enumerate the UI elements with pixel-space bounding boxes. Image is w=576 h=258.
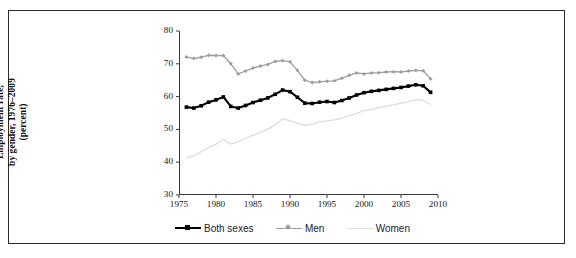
- data-point-marker: [251, 66, 255, 70]
- data-point-marker: [377, 89, 381, 93]
- data-point-marker: [258, 64, 262, 68]
- data-point-marker: [333, 101, 337, 105]
- data-point-marker: [369, 71, 373, 75]
- data-point-marker: [377, 71, 381, 75]
- series-both-sexes: [185, 83, 433, 110]
- data-point-marker: [259, 98, 263, 102]
- data-point-marker: [399, 70, 403, 74]
- data-point-marker: [399, 86, 403, 90]
- line-chart: Employment rate, by gender, 1976–2009 (p…: [0, 0, 576, 258]
- chart-legend: Both sexes Men Women: [175, 218, 410, 238]
- data-point-marker: [392, 87, 396, 91]
- data-point-marker: [288, 90, 292, 94]
- legend-item-both-sexes[interactable]: Both sexes: [175, 223, 253, 234]
- data-point-marker: [236, 106, 240, 110]
- data-point-marker: [414, 68, 418, 72]
- data-point-marker: [244, 69, 248, 73]
- legend-swatch-both-sexes: [175, 223, 201, 233]
- data-point-marker: [281, 59, 285, 63]
- data-point-marker: [355, 71, 359, 75]
- data-point-marker: [414, 83, 418, 87]
- data-point-marker: [332, 79, 336, 83]
- data-point-marker: [296, 95, 300, 99]
- data-point-marker: [214, 54, 218, 58]
- data-point-marker: [347, 73, 351, 77]
- data-point-marker: [318, 80, 322, 84]
- data-point-marker: [192, 57, 196, 61]
- data-point-marker: [273, 93, 277, 97]
- data-point-marker: [318, 100, 322, 104]
- legend-swatch-women: [347, 223, 373, 233]
- data-point-marker: [281, 88, 285, 92]
- figure-root: Employment rate, by gender, 1976–2009 (p…: [0, 0, 576, 258]
- data-point-marker: [362, 91, 366, 95]
- data-point-marker: [406, 69, 410, 73]
- data-point-marker: [222, 95, 226, 99]
- legend-swatch-men: [276, 223, 302, 233]
- data-point-marker: [340, 99, 344, 103]
- series-women: [186, 100, 430, 158]
- data-point-marker: [229, 105, 233, 109]
- legend-label-both-sexes: Both sexes: [204, 223, 253, 234]
- data-point-marker: [266, 62, 270, 66]
- data-point-marker: [392, 70, 396, 74]
- legend-item-men[interactable]: Men: [276, 223, 324, 234]
- data-point-marker: [384, 70, 388, 74]
- data-point-marker: [273, 60, 277, 64]
- data-point-marker: [199, 104, 203, 108]
- data-point-marker: [429, 91, 433, 95]
- data-point-marker: [184, 55, 188, 59]
- data-point-marker: [325, 100, 329, 104]
- data-point-marker: [251, 101, 255, 105]
- data-point-marker: [214, 98, 218, 102]
- data-point-marker: [310, 81, 314, 85]
- data-point-marker: [244, 104, 248, 108]
- data-point-marker: [325, 79, 329, 83]
- data-point-marker: [207, 53, 211, 57]
- data-point-marker: [192, 106, 196, 110]
- data-point-marker: [370, 90, 374, 94]
- data-point-marker: [355, 93, 359, 97]
- data-point-marker: [199, 55, 203, 59]
- data-point-marker: [347, 96, 351, 100]
- legend-label-men: Men: [305, 223, 324, 234]
- data-point-marker: [207, 100, 211, 104]
- data-point-marker: [340, 76, 344, 80]
- data-point-marker: [384, 88, 388, 92]
- data-point-marker: [303, 101, 307, 105]
- data-point-marker: [185, 105, 189, 109]
- legend-item-women[interactable]: Women: [347, 223, 410, 234]
- data-point-marker: [266, 96, 270, 100]
- series-men: [184, 53, 432, 84]
- data-point-marker: [310, 102, 314, 106]
- series-line: [186, 55, 430, 82]
- legend-label-women: Women: [376, 223, 410, 234]
- data-point-marker: [407, 84, 411, 88]
- data-point-marker: [421, 84, 425, 88]
- data-point-marker: [362, 72, 366, 76]
- series-line: [186, 100, 430, 158]
